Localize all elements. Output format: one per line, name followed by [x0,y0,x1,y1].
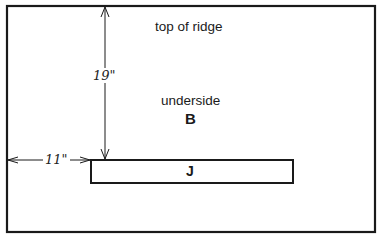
vertical-dimension-arrow [101,7,109,159]
board-b-label: B [185,111,196,126]
top-of-ridge-label: top of ridge [155,20,223,34]
underside-label: underside [161,94,220,108]
vertical-dimension-label: 19" [92,68,117,83]
board-j-label: J [186,164,194,178]
horizontal-dimension-label: 11" [43,153,70,166]
diagram-canvas: top of ridge underside B J 19" 11" [0,0,381,237]
